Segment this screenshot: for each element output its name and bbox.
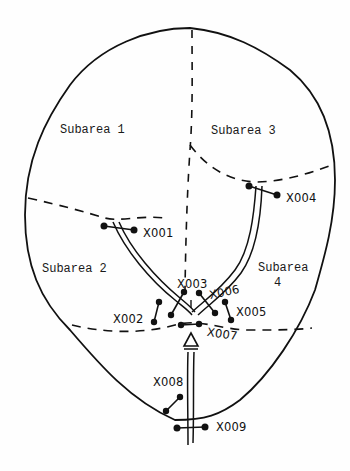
marker-X003-symbol: [168, 289, 187, 318]
subarea-3-label: Subarea 3: [211, 125, 276, 138]
marker-X002-label: X002: [113, 313, 144, 325]
area-boundary: [25, 28, 335, 420]
marker-X005-label: X005: [236, 306, 267, 318]
marker-X009-label: X009: [216, 421, 247, 433]
diagram-canvas: Subarea 1 Subarea 2 Subarea 3 Subarea 4 …: [0, 0, 350, 471]
marker-X003-label: X003: [177, 278, 208, 290]
marker-X008-symbol: [163, 394, 183, 414]
marker-X005-symbol: [222, 299, 234, 323]
marker-X007-symbol: [178, 321, 202, 328]
marker-X008-label: X008: [153, 376, 184, 388]
marker-X001-label: X001: [143, 227, 174, 239]
divider-left: [28, 198, 165, 219]
subarea-4-label-line1: Subarea: [258, 262, 308, 275]
divider-vertical: [185, 30, 192, 290]
marker-X001-symbol: [101, 223, 138, 234]
marker-X004-symbol: [246, 183, 281, 199]
subarea-4-label-line2: 4: [274, 277, 281, 290]
diagram-drawing: [0, 0, 350, 471]
divider-right: [190, 145, 332, 182]
subarea-1-label: Subarea 1: [60, 124, 125, 137]
entry-arrow-icon: [184, 333, 198, 349]
path-trunk-b: [193, 352, 194, 443]
marker-X004-label: X004: [286, 192, 317, 204]
subarea-2-label: Subarea 2: [42, 263, 107, 276]
marker-X009-symbol: [174, 424, 209, 432]
marker-X002-symbol: [151, 299, 162, 325]
